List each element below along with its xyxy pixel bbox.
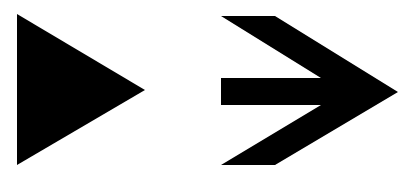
- arrow-right-icon: Right arrow: [221, 16, 398, 165]
- triangle-right-icon: Play / right-pointing triangle: [17, 14, 145, 165]
- glyph-svg: Play / right-pointing triangle Right arr…: [0, 0, 420, 191]
- glyph-canvas: Play / right-pointing triangle Right arr…: [0, 0, 420, 191]
